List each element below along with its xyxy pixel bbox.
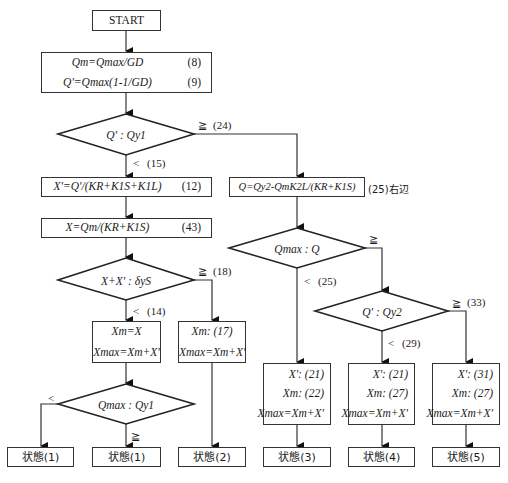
eq-ref-9: (9)	[163, 77, 201, 89]
decision5-text: Q' : Qy2	[362, 306, 402, 318]
xm-formula: Xm=X	[93, 326, 160, 338]
formula-25: Q=Qy2-QmK2L/(KR+K1S)	[230, 182, 364, 193]
formula-12: X'=Q'/(KR+K1S+K1L)	[52, 181, 163, 193]
result-box-state5: X': (31) Xm: (27) Xmax=Xm+X'	[432, 363, 500, 425]
formula-43: X=Qm/(KR+K1S)	[52, 222, 163, 234]
formula-9: Q'=Qmax(1-1/GD)	[52, 77, 163, 89]
decision1-no-ref: (15)	[147, 157, 165, 169]
decision4-text: Qmax : Q	[274, 243, 319, 255]
state-box-5: 状態(5)	[432, 447, 500, 467]
start-label: START	[109, 15, 144, 27]
state-box-1a: 状態(1)	[7, 447, 74, 467]
decision4-no-label: <	[304, 275, 310, 287]
decision4-no-ref: (25)	[318, 275, 336, 287]
decision2-yes-label: ≧	[198, 265, 207, 278]
eq-ref-43: (43)	[163, 222, 201, 234]
decision5-no-label: <	[388, 337, 394, 349]
state-label: 状態(5)	[447, 452, 485, 463]
x-prime-ref: X': (21)	[289, 369, 324, 381]
state-label: 状態(4)	[363, 452, 401, 463]
eq-ref-12: (12)	[163, 181, 201, 193]
xm-ref: Xm: (27)	[367, 388, 408, 400]
formula-8: Qm=Qmax/GD	[52, 57, 163, 69]
xm-17-formula: Xm: (17)	[179, 326, 245, 338]
xmax-formula: Xmax=Xm+X'	[341, 408, 408, 420]
state-box-1b: 状態(1)	[92, 447, 161, 467]
box25-note: (25)右辺	[368, 181, 409, 196]
state-label: 状態(3)	[278, 452, 316, 463]
decision2-no-label: <	[133, 305, 139, 317]
x-prime-ref: X': (21)	[373, 369, 408, 381]
decision5-yes-ref: (33)	[467, 296, 485, 308]
xm-ref: Xm: (22)	[283, 388, 324, 400]
decision4-yes-label: ≧	[369, 233, 378, 246]
init-formula-box: Qm=Qmax/GD(8) Q'=Qmax(1-1/GD)(9)	[41, 52, 212, 93]
box-xm-equals-x: Xm=X Xmax=Xm+X'	[92, 321, 161, 363]
xmax-formula: Xmax=Xm+X'	[179, 347, 245, 359]
xmax-formula: Xmax=Xm+X'	[257, 408, 324, 420]
result-box-state4: X': (21) Xm: (27) Xmax=Xm+X'	[348, 363, 415, 425]
xmax-formula: Xmax=Xm+X'	[426, 408, 493, 420]
state-label: 状態(2)	[193, 452, 231, 463]
start-terminal: START	[92, 10, 161, 31]
decision2-text: X+X' : δyS	[101, 275, 151, 287]
state-box-4: 状態(4)	[348, 447, 415, 467]
xmax-formula: Xmax=Xm+X'	[93, 347, 160, 359]
box-xm-17: Xm: (17) Xmax=Xm+X'	[178, 321, 246, 363]
eq-ref-8: (8)	[163, 57, 201, 69]
decision2-no-ref: (14)	[147, 305, 165, 317]
state-box-2: 状態(2)	[178, 447, 246, 467]
decision3-left-label: <	[48, 392, 54, 404]
state-label: 状態(1)	[108, 452, 146, 463]
decision1-yes-label: ≧	[198, 119, 207, 132]
decision3-down-label: ≧	[131, 430, 140, 443]
decision3-text: Qmax : Qy1	[98, 399, 154, 411]
decision5-no-ref: (29)	[402, 337, 420, 349]
decision1-yes-ref: (24)	[213, 119, 231, 131]
formula-box-43: X=Qm/(KR+K1S)(43)	[41, 218, 212, 238]
state-label: 状態(1)	[22, 452, 60, 463]
x-prime-ref: X': (31)	[458, 369, 493, 381]
decision2-yes-ref: (18)	[213, 265, 231, 277]
decision1-no-label: <	[133, 157, 139, 169]
xm-ref: Xm: (27)	[452, 388, 493, 400]
formula-box-25: Q=Qy2-QmK2L/(KR+K1S)	[229, 177, 365, 197]
formula-box-12: X'=Q'/(KR+K1S+K1L)(12)	[41, 177, 212, 197]
decision1-text: Q' : Qy1	[106, 129, 146, 141]
result-box-state3: X': (21) Xm: (22) Xmax=Xm+X'	[263, 363, 331, 425]
decision5-yes-label: ≧	[452, 297, 461, 310]
state-box-3: 状態(3)	[263, 447, 331, 467]
